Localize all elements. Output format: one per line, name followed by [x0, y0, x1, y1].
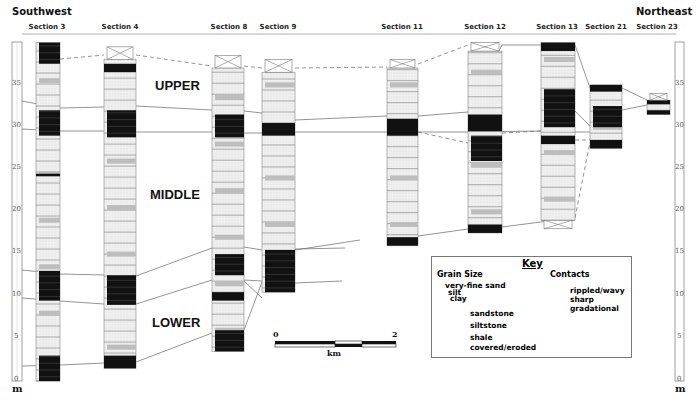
column-s13: [541, 43, 575, 229]
section-11-label: Section 11: [381, 23, 423, 31]
column-s11: [387, 60, 418, 246]
section-13-label: Section 13: [536, 23, 578, 31]
section-9-label: Section 9: [260, 23, 297, 31]
column-s21: [590, 85, 622, 148]
upper-unit-label: UPPER: [155, 78, 200, 93]
right-tick-0: 0: [677, 375, 681, 383]
grain-clay: clay: [450, 294, 467, 303]
column-s8: [212, 55, 244, 351]
right-tick-30: 30: [675, 121, 684, 129]
grain-size-heading: Grain Size: [437, 270, 483, 279]
right-tick-35: 35: [675, 79, 684, 87]
key-title: Key: [522, 258, 543, 269]
middle-unit-label: MIDDLE: [150, 187, 200, 202]
lith-covered-eroded: covered/eroded: [470, 343, 536, 352]
right-tick-10: 10: [675, 290, 684, 298]
left-tick-25: 25: [12, 163, 21, 171]
section-12-label: Section 12: [464, 23, 506, 31]
lith-siltstone: siltstone: [470, 321, 507, 330]
right-axis-unit: m: [675, 383, 686, 394]
left-tick-10: 10: [12, 290, 21, 298]
left-tick-35: 35: [12, 79, 21, 87]
column-s23: [647, 93, 670, 114]
right-tick-15: 15: [675, 247, 684, 255]
left-tick-30: 30: [12, 121, 21, 129]
section-23-label: Section 23: [636, 23, 678, 31]
contact-sharp: sharp: [570, 295, 594, 304]
section-8-label: Section 8: [211, 23, 248, 31]
right-tick-25: 25: [675, 163, 684, 171]
column-s9: [262, 60, 295, 293]
left-tick-15: 15: [12, 247, 21, 255]
lith-shale: shale: [470, 333, 493, 342]
scale-bar: [275, 341, 396, 347]
contact-rippled-wavy: rippled/wavy: [570, 286, 625, 295]
legend-key: Key Grain Size very-fine sand silt clay …: [431, 256, 632, 358]
left-tick-0: 0: [14, 375, 18, 383]
northeast-label: Northeast: [636, 6, 692, 17]
right-tick-5: 5: [677, 332, 681, 340]
contacts-heading: Contacts: [550, 270, 590, 279]
column-s12: [468, 43, 502, 233]
section-21-label: Section 21: [585, 23, 627, 31]
left-axis-unit: m: [12, 383, 23, 394]
southwest-label: Southwest: [12, 6, 72, 17]
column-s4: [104, 47, 136, 368]
section-3-label: Section 3: [29, 23, 66, 31]
right-tick-20: 20: [675, 205, 684, 213]
lower-unit-label: LOWER: [152, 315, 200, 330]
left-tick-20: 20: [12, 205, 21, 213]
scale-unit-label: km: [327, 348, 341, 358]
section-4-label: Section 4: [102, 23, 139, 31]
left-tick-5: 5: [14, 332, 18, 340]
contact-gradational: gradational: [570, 304, 619, 313]
column-s3: [36, 43, 60, 381]
lith-sandstone: sandstone: [470, 309, 514, 318]
scale-start-label: 0: [273, 329, 279, 339]
scale-end-label: 2: [392, 329, 398, 339]
